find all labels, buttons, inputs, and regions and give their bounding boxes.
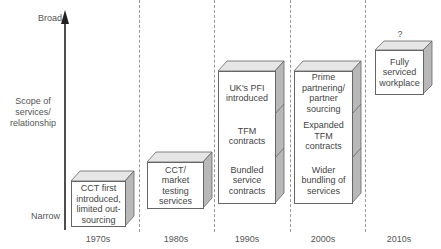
era-divider (365, 0, 366, 232)
axis-bottom-label: Narrow (22, 211, 60, 221)
era-label-2010s: 2010s (369, 234, 429, 244)
arrow-up-icon (61, 10, 69, 24)
era-box-1990s-top: UK's PFI introduced (218, 71, 276, 115)
question-annotation: ? (394, 29, 406, 39)
era-label-1980s: 1980s (146, 234, 206, 244)
era-divider (214, 0, 215, 232)
era-label-1990s: 1990s (217, 234, 277, 244)
era-box-2000s-bottom: Wider bundling of services (294, 158, 353, 204)
era-box-1990s-middle: TFM contracts (218, 114, 276, 159)
axis-top-label: Broad (28, 13, 62, 23)
era-label-1970s: 1970s (68, 234, 128, 244)
era-box-2000s-middle: Expanded TFM contracts (294, 114, 353, 159)
axis-title: Scope of services/ relationship (2, 96, 64, 129)
era-box-2010s: Fully serviced workplace (375, 50, 424, 95)
era-divider (290, 0, 291, 232)
era-label-2000s: 2000s (293, 234, 353, 244)
era-box-2000s-top: Prime partnering/ partner sourcing (294, 71, 353, 115)
era-box-1970s: CCT first introduced, limited out-sourci… (71, 181, 126, 227)
era-divider (139, 0, 140, 232)
era-box-1980s: CCT/ market testing services (147, 162, 204, 209)
era-box-1990s-bottom: Bundled service contracts (218, 158, 276, 204)
